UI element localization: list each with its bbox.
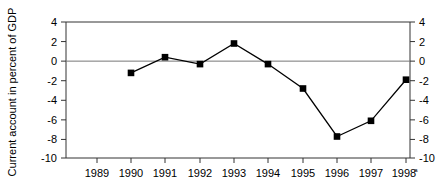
y-tick-label-0: 0 <box>51 55 57 67</box>
y2-tick-label-neg6: -6 <box>419 114 429 126</box>
y-tick-label-neg4: -4 <box>47 94 57 106</box>
x-tick-label-1997: 1997 <box>359 167 383 179</box>
data-point-1993 <box>231 40 238 47</box>
data-point-1995 <box>300 85 307 92</box>
y-tick-label-neg8: -8 <box>47 133 57 145</box>
y-tick-label-4: 4 <box>51 16 57 28</box>
x-tick-label-1992: 1992 <box>188 167 212 179</box>
y2-tick-label-neg4: -4 <box>419 94 429 106</box>
x-tick-label-1995: 1995 <box>291 167 315 179</box>
y2-tick-label-neg2: -2 <box>419 75 429 87</box>
x-tick-label-1994: 1994 <box>256 167 280 179</box>
x-tick-label-1990: 1990 <box>119 167 143 179</box>
y2-tick-label-neg10: -10 <box>419 152 435 164</box>
y2-tick-label-neg8: -8 <box>419 133 429 145</box>
x-tick-label-1996: 1996 <box>325 167 349 179</box>
y-tick-label-neg10: -10 <box>41 152 57 164</box>
data-point-1996 <box>334 133 341 140</box>
x-tick-label-1993: 1993 <box>222 167 246 179</box>
x-tick-label-1989: 1989 <box>85 167 109 179</box>
y2-tick-label-4: 4 <box>419 16 425 28</box>
y2-tick-label-0: 0 <box>419 55 425 67</box>
data-point-1990 <box>128 70 135 77</box>
x-tick-label-1998: 1998 <box>392 167 416 179</box>
data-point-1991 <box>162 54 169 61</box>
y-tick-label-neg2: -2 <box>47 75 57 87</box>
y-tick-label-2: 2 <box>51 36 57 48</box>
data-point-1998 <box>403 76 410 83</box>
data-point-1997 <box>368 118 375 125</box>
y-axis-title: Current account in percent of GDP <box>6 8 18 177</box>
chart-figure: Current account in percent of GDP 4 2 0 … <box>0 0 437 185</box>
data-point-1992 <box>197 61 204 68</box>
y-tick-label-neg6: -6 <box>47 114 57 126</box>
current-account-line-chart: Current account in percent of GDP 4 2 0 … <box>0 0 437 185</box>
y2-tick-label-2: 2 <box>419 36 425 48</box>
data-point-1994 <box>265 61 272 68</box>
x-tick-label-1991: 1991 <box>153 167 177 179</box>
